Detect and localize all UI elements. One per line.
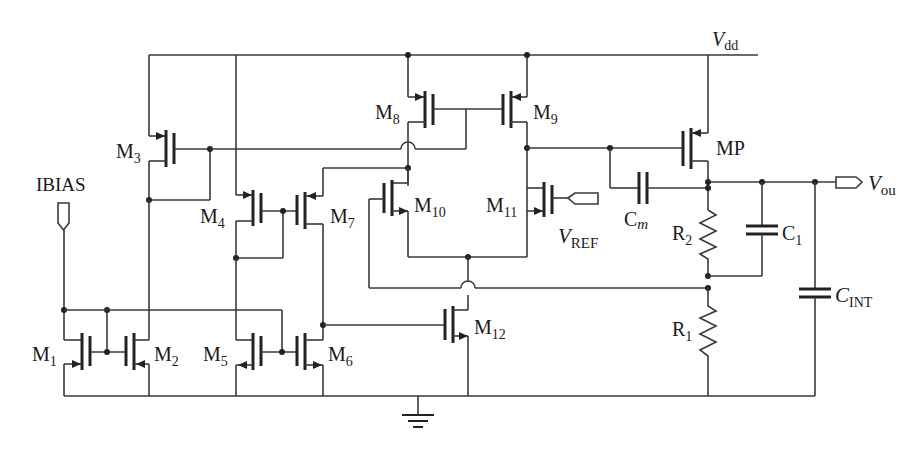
transistor-m9 (503, 91, 530, 188)
ground-rail (64, 396, 815, 415)
transistor-m1 (61, 307, 90, 396)
vout-label: Vou (868, 171, 896, 198)
m1-label: M1 (32, 343, 57, 369)
resistor-r1 (700, 288, 716, 396)
ibias-pin (58, 203, 69, 310)
transistor-mp (683, 128, 708, 210)
circuit-diagram: Vdd M3 IBIAS (0, 0, 924, 455)
m3-label: M3 (116, 140, 141, 166)
transistor-m8 (405, 91, 503, 186)
transistor-m5 (236, 333, 297, 396)
transistor-m10 (369, 168, 408, 288)
vref-label: VREF (558, 224, 598, 251)
mp-label: MP (716, 137, 745, 159)
vout-pin (836, 177, 862, 188)
capacitor-cm (639, 172, 708, 204)
m2-label: M2 (154, 343, 179, 369)
vdd-label: Vdd (712, 28, 738, 53)
ground-icon (402, 415, 434, 427)
m4-label: M4 (200, 205, 225, 231)
bias-line-m3 (210, 109, 466, 149)
m7-label: M7 (330, 205, 355, 231)
transistor-m12 (443, 306, 468, 396)
cropped-caption-strip (0, 0, 260, 6)
vref-pin (568, 193, 598, 204)
transistor-m2 (90, 307, 149, 396)
cint-label: CINT (835, 283, 873, 310)
diff-pair-tail (408, 254, 527, 310)
transistor-m4 (233, 190, 297, 261)
cm-label: Cm (624, 208, 648, 232)
output-node (705, 179, 836, 191)
m8-label: M8 (375, 101, 400, 127)
ibias-label: IBIAS (36, 174, 86, 195)
r2-label: R2 (672, 222, 692, 248)
m6-label: M6 (328, 343, 353, 369)
capacitor-c1 (708, 182, 778, 276)
r1-label: R1 (672, 318, 692, 344)
vdd-rail (149, 52, 758, 195)
m11-label: M11 (486, 194, 517, 220)
resistor-r2 (700, 210, 716, 291)
bias-line-nmos (64, 310, 282, 352)
m9-out-node (527, 145, 682, 188)
transistor-m3 (146, 130, 213, 203)
capacitor-cint (799, 182, 831, 396)
m12-label: M12 (474, 316, 506, 342)
transistor-m6 (297, 322, 443, 396)
c1-label: C1 (782, 222, 802, 248)
m9-label: M9 (533, 101, 558, 127)
m10-label: M10 (414, 194, 446, 220)
m5-label: M5 (203, 343, 228, 369)
